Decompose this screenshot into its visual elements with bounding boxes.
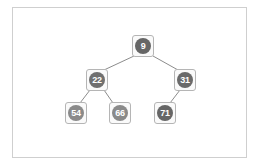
node-value: 66 — [112, 105, 128, 121]
node-value: 54 — [68, 105, 84, 121]
tree-node-71[interactable]: 71 — [154, 102, 176, 124]
node-value: 22 — [89, 72, 105, 88]
tree-node-31[interactable]: 31 — [174, 69, 196, 91]
tree-node-9[interactable]: 9 — [132, 35, 154, 57]
edge-9-31 — [153, 56, 178, 70]
tree-node-22[interactable]: 22 — [86, 69, 108, 91]
edge-9-22 — [104, 56, 134, 70]
tree-node-66[interactable]: 66 — [109, 102, 131, 124]
tree-node-54[interactable]: 54 — [65, 102, 87, 124]
node-value: 31 — [177, 72, 193, 88]
node-value: 71 — [157, 105, 173, 121]
node-value: 9 — [135, 38, 151, 54]
tree-edges — [0, 0, 258, 167]
